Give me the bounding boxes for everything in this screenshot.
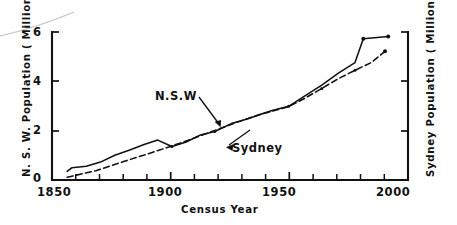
x-axis-title: Census Year [181,205,259,215]
chart-figure: N. S. W. Population ( Million ) Sydney P… [0,0,457,225]
xtick-group [52,172,408,180]
y-axis-tick-label-6: 6 [33,27,42,39]
series-line-nsw [67,37,388,172]
series-label-sydney: Sydney [232,143,283,155]
y-axis-title-right: Sydney Population ( Million ) [426,31,436,177]
series-line-sydney [67,51,385,177]
series-label-nsw: N.S.W [155,91,197,103]
series-markers-sydney [320,49,387,90]
y-axis-tick-label-2: 2 [33,125,42,137]
axis-left-and-bottom [52,32,408,180]
x-axis-tick-label-2000: 2000 [376,187,410,199]
y-axis-title-left: N. S. W. Population ( Million ) [22,31,32,177]
x-axis-tick-label-1900: 1900 [148,187,182,199]
y-axis-tick-label-4: 4 [33,76,42,88]
series-markers-nsw [170,35,390,148]
x-axis-tick-label-1950: 1950 [262,187,296,199]
y-axis-tick-label-0: 0 [33,173,42,185]
x-axis-tick-label-1850: 1850 [37,187,71,199]
annotation-leader-nsw [199,97,221,127]
